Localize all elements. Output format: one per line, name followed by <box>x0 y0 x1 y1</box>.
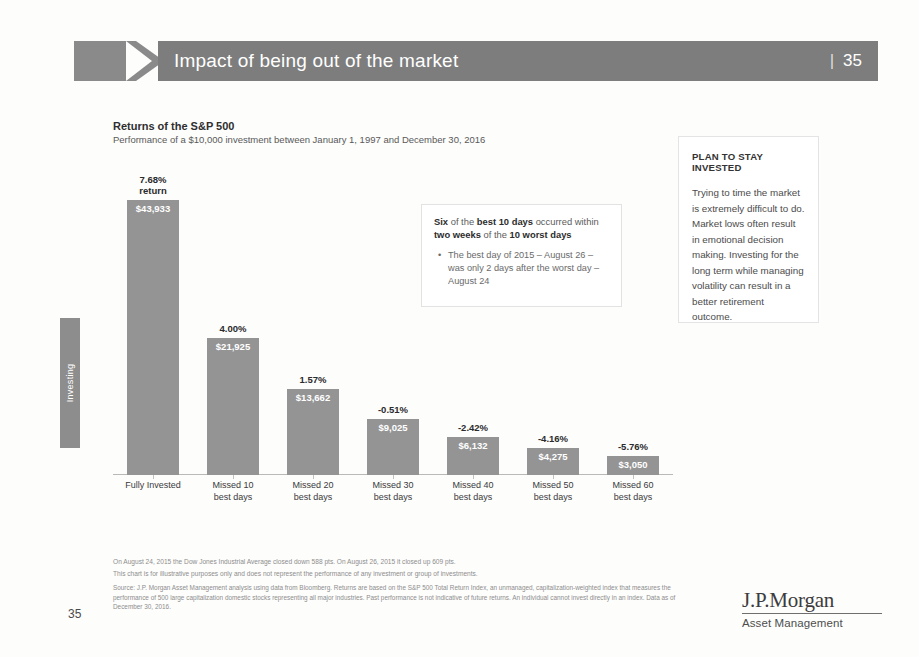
bar-percent-label: 1.57% <box>287 374 339 385</box>
slide-header: Impact of being out of the market |35 <box>74 41 878 81</box>
callout-heading-part-2: of the <box>448 216 477 227</box>
logo-subtitle: Asset Management <box>742 617 888 629</box>
bar-percent-label: 4.00% <box>207 323 259 334</box>
plan-panel-body: Trying to time the market is extremely d… <box>692 185 805 325</box>
bar[interactable]: $4,275 <box>527 448 579 475</box>
sidebar-tab-label: Investing <box>65 364 75 403</box>
logo-wordmark: J.P.Morgan <box>742 589 888 611</box>
bar-value-label: $6,132 <box>447 440 499 451</box>
callout-heading-part-7: 10 worst days <box>510 229 572 240</box>
bar-group: -2.42%$6,132 <box>447 407 499 475</box>
callout-box: Six of the best 10 days occurred within … <box>421 204 622 307</box>
x-axis-label: Fully Invested <box>113 479 193 491</box>
bar-value-label: $21,925 <box>207 341 259 352</box>
chart-title: Returns of the S&P 500 <box>113 120 234 132</box>
bar[interactable]: $9,025 <box>367 419 419 475</box>
slide: Impact of being out of the market |35 In… <box>0 0 919 657</box>
callout-bullet-text: The best day of 2015 – August 26 – was o… <box>448 250 599 286</box>
x-axis-label: Missed 60 best days <box>593 479 673 503</box>
bar-group: 7.68% return$43,933 <box>127 170 179 475</box>
sidebar-tab-investing[interactable]: Investing <box>60 318 80 448</box>
bar[interactable]: $21,925 <box>207 338 259 475</box>
bar[interactable]: $43,933 <box>127 200 179 475</box>
slide-page-number: 35 <box>68 607 81 621</box>
plan-panel: PLAN TO STAY INVESTED Trying to time the… <box>678 136 819 323</box>
x-axis-label: Missed 20 best days <box>273 479 353 503</box>
bar-percent-label: -0.51% <box>367 404 419 415</box>
page-title: Impact of being out of the market <box>174 41 458 81</box>
callout-heading-part-1: Six <box>434 216 448 227</box>
plan-panel-title: PLAN TO STAY INVESTED <box>692 151 805 173</box>
bar-group: -5.76%$3,050 <box>607 426 659 475</box>
callout-heading-part-5: two weeks <box>434 229 481 240</box>
bar-value-label: $9,025 <box>367 422 419 433</box>
bar[interactable]: $6,132 <box>447 437 499 475</box>
bar-group: -4.16%$4,275 <box>527 418 579 475</box>
header-page-indicator: |35 <box>830 41 862 81</box>
chart-x-axis-labels: Fully InvestedMissed 10 best daysMissed … <box>113 479 673 513</box>
bar-value-label: $4,275 <box>527 451 579 462</box>
footnote-source: Source: J.P. Morgan Asset Management ana… <box>113 583 683 612</box>
callout-heading-part-6: of the <box>481 229 510 240</box>
x-axis-label: Missed 10 best days <box>193 479 273 503</box>
list-item: •The best day of 2015 – August 26 – was … <box>448 249 609 288</box>
footnote-line-2: This chart is for illustrative purposes … <box>113 568 683 580</box>
callout-bullet-list: •The best day of 2015 – August 26 – was … <box>434 249 609 288</box>
bar[interactable]: $3,050 <box>607 456 659 475</box>
bar[interactable]: $13,662 <box>287 389 339 475</box>
callout-heading-part-3: best 10 days <box>477 216 533 227</box>
callout-heading-part-4: occurred within <box>533 216 599 227</box>
x-axis-label: Missed 30 best days <box>353 479 433 503</box>
bar-value-label: $43,933 <box>127 203 179 214</box>
bar-percent-label: -4.16% <box>527 433 579 444</box>
chart-subtitle: Performance of a $10,000 investment betw… <box>113 134 485 145</box>
bar-value-label: $3,050 <box>607 459 659 470</box>
bar-group: 1.57%$13,662 <box>287 359 339 475</box>
bar-percent-label: -2.42% <box>447 422 499 433</box>
footnotes: On August 24, 2015 the Dow Jones Industr… <box>113 556 683 612</box>
bar-percent-label: 7.68% return <box>127 174 179 196</box>
header-divider: | <box>830 41 834 81</box>
bar-group: -0.51%$9,025 <box>367 389 419 475</box>
callout-heading: Six of the best 10 days occurred within … <box>434 215 609 241</box>
bullet-icon: • <box>438 249 441 262</box>
bar-percent-label: -5.76% <box>607 441 659 452</box>
logo-rule <box>742 613 882 614</box>
footnote-line-1: On August 24, 2015 the Dow Jones Industr… <box>113 556 683 568</box>
header-page-number: 35 <box>843 51 862 70</box>
header-arrow-notch <box>126 41 152 81</box>
x-axis-label: Missed 40 best days <box>433 479 513 503</box>
bar-group: 4.00%$21,925 <box>207 308 259 475</box>
x-axis-label: Missed 50 best days <box>513 479 593 503</box>
bar-value-label: $13,662 <box>287 392 339 403</box>
jpmorgan-logo: J.P.Morgan Asset Management <box>742 589 888 629</box>
